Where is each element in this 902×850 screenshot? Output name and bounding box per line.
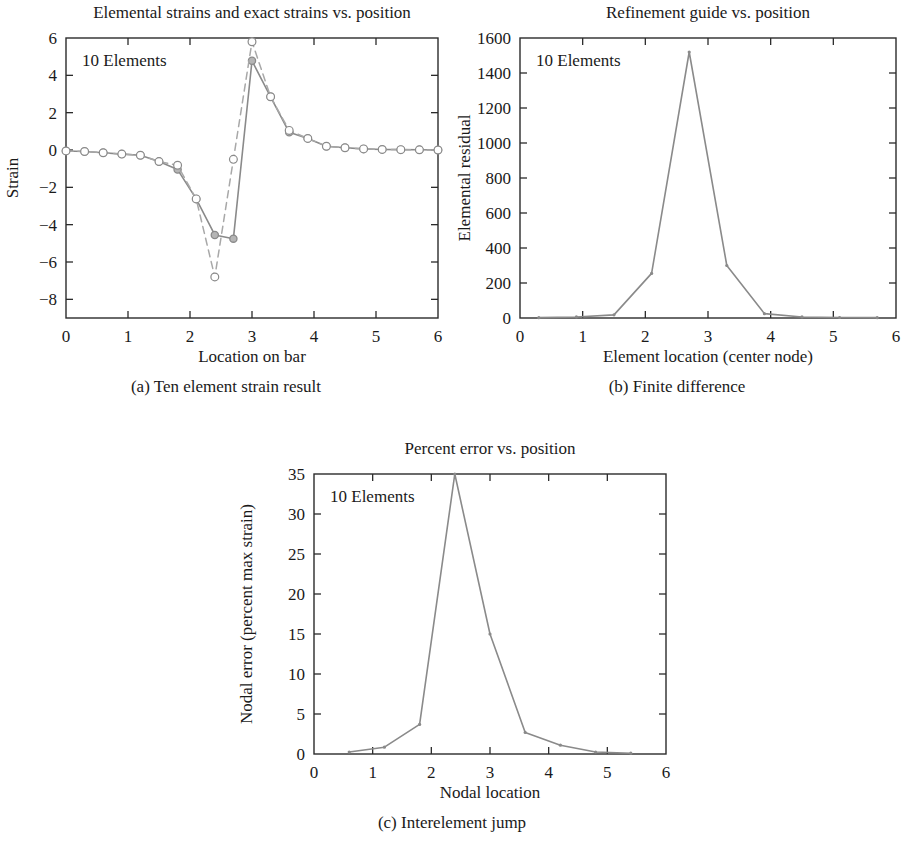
data-point-open [137, 151, 145, 159]
chart-b: Refinement guide vs. position01234560200… [452, 0, 902, 420]
x-tick-label: 1 [368, 763, 377, 782]
y-tick-label: 1400 [477, 64, 511, 83]
y-axis-title-a: Strain [3, 157, 22, 198]
y-axis-title-c: Nodal error (percent max strain) [237, 504, 256, 724]
y-tick-label: 0 [49, 141, 58, 160]
plot-frame-b [520, 38, 896, 318]
y-tick-label: 0 [503, 309, 512, 328]
y-tick-label: 20 [288, 585, 305, 604]
series-line-b-0 [539, 52, 877, 318]
x-tick-label: 3 [704, 327, 713, 346]
x-tick-label: 2 [186, 327, 195, 346]
y-tick-label: 5 [297, 705, 306, 724]
x-tick-label: 4 [544, 763, 553, 782]
y-tick-label: 600 [486, 204, 512, 223]
x-tick-label: 2 [427, 763, 436, 782]
data-point-open [434, 146, 442, 154]
data-point-open [285, 126, 293, 134]
data-point [524, 731, 527, 734]
y-tick-label: −2 [39, 178, 57, 197]
chart-a: Elemental strains and exact strains vs. … [0, 0, 452, 420]
data-point [453, 472, 456, 475]
y-tick-label: −6 [39, 253, 57, 272]
plot-annotation-b: 10 Elements [536, 51, 621, 70]
series-line-a-1 [66, 42, 438, 277]
x-tick-label: 0 [310, 763, 319, 782]
data-point [763, 312, 766, 315]
y-tick-label: 25 [288, 545, 305, 564]
x-tick-label: 1 [124, 327, 133, 346]
data-point [688, 50, 691, 53]
chart-title-c: Percent error vs. position [405, 439, 576, 458]
x-tick-label: 6 [892, 327, 901, 346]
data-point-open [99, 149, 107, 157]
data-point-open [416, 146, 424, 154]
y-tick-label: 35 [288, 465, 305, 484]
y-tick-label: 2 [49, 104, 58, 123]
data-point-open [155, 158, 163, 166]
figure-three-panel-fem-strain: Elemental strains and exact strains vs. … [0, 0, 902, 850]
data-point-open [248, 38, 256, 46]
data-point [725, 264, 728, 267]
x-tick-label: 5 [603, 763, 612, 782]
x-axis-title-b: Element location (center node) [603, 347, 813, 366]
data-point [537, 316, 540, 319]
y-axis-title-b: Elemental residual [455, 114, 474, 241]
data-point-open [341, 144, 349, 152]
y-tick-label: 4 [49, 66, 58, 85]
data-point-open [304, 135, 312, 143]
data-point-filled [230, 235, 237, 242]
data-point-filled [211, 231, 218, 238]
data-point-open [118, 150, 126, 158]
chart-c: Percent error vs. position01234560510152… [226, 430, 678, 850]
x-tick-label: 2 [641, 327, 650, 346]
y-tick-label: 0 [297, 745, 306, 764]
plot-annotation-a: 10 Elements [82, 51, 167, 70]
x-tick-label: 6 [434, 327, 443, 346]
y-tick-label: 1000 [477, 134, 511, 153]
x-tick-label: 0 [516, 327, 525, 346]
data-point [383, 746, 386, 749]
data-point-open [211, 273, 219, 281]
x-tick-label: 6 [662, 763, 671, 782]
x-axis-title-a: Location on bar [198, 347, 306, 366]
y-tick-label: 1200 [477, 99, 511, 118]
plot-frame-c [314, 474, 666, 754]
x-tick-label: 5 [372, 327, 381, 346]
x-tick-label: 4 [766, 327, 775, 346]
data-point-open [323, 142, 331, 150]
data-point-open [62, 147, 70, 155]
y-tick-label: −8 [39, 290, 57, 309]
y-tick-label: 400 [486, 239, 512, 258]
y-tick-label: −4 [39, 216, 58, 235]
data-point [650, 272, 653, 275]
panel-caption-c: (c) Interelement jump [378, 813, 526, 832]
panel-b-finite-difference: Refinement guide vs. position01234560200… [452, 0, 902, 420]
y-tick-label: 6 [49, 29, 58, 48]
chart-title-a: Elemental strains and exact strains vs. … [93, 3, 411, 22]
data-point [612, 313, 615, 316]
data-point-open [397, 146, 405, 154]
y-tick-label: 1600 [477, 29, 511, 48]
x-axis-title-c: Nodal location [440, 783, 541, 802]
y-tick-label: 15 [288, 625, 305, 644]
data-point-open [267, 93, 275, 101]
data-point-open [192, 195, 200, 203]
x-tick-label: 3 [486, 763, 495, 782]
x-tick-label: 0 [62, 327, 71, 346]
data-point [488, 632, 491, 635]
x-tick-label: 3 [248, 327, 257, 346]
y-tick-label: 10 [288, 665, 305, 684]
panel-c-interelement-jump: Percent error vs. position01234560510152… [226, 430, 678, 850]
data-point-open [81, 148, 89, 156]
y-tick-label: 200 [486, 274, 512, 293]
data-point [629, 752, 632, 755]
panel-a-ten-element-strain: Elemental strains and exact strains vs. … [0, 0, 452, 420]
data-point [800, 315, 803, 318]
data-point [559, 744, 562, 747]
data-point-open [230, 155, 238, 163]
panel-caption-a: (a) Ten element strain result [131, 377, 321, 396]
data-point [876, 316, 879, 319]
y-tick-label: 800 [486, 169, 512, 188]
data-point [418, 723, 421, 726]
